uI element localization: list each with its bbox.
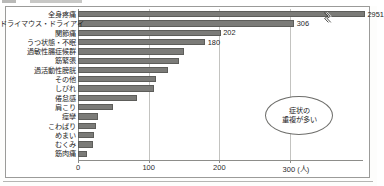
bar <box>78 67 168 73</box>
cutoff-mark-mid <box>30 0 82 3</box>
category-label: ドライマウス・ドライアイ <box>0 20 76 27</box>
bar <box>78 48 184 54</box>
bar <box>78 132 94 138</box>
axis-break-icon <box>322 9 333 19</box>
bar <box>78 85 154 91</box>
bar <box>78 113 98 119</box>
bar <box>78 30 221 36</box>
value-label: 180 <box>208 39 220 46</box>
category-label: 関節痛 <box>0 30 76 37</box>
category-label: こわばり <box>0 123 76 130</box>
x-axis-unit-label: 300 (人) <box>283 163 310 174</box>
x-tick-label-200: 200 <box>213 163 226 172</box>
x-tick-label-100: 100 <box>142 163 155 172</box>
category-label: 痙攣 <box>0 113 76 120</box>
x-axis-line <box>78 160 363 161</box>
category-label: むくみ <box>0 141 76 148</box>
bar <box>78 58 179 64</box>
callout-bubble: 症状の 重複が多い <box>265 96 333 135</box>
category-label: うつ状態・不眠 <box>0 39 76 46</box>
category-label: その他 <box>0 76 76 83</box>
callout-line-2: 重複が多い <box>282 116 317 124</box>
bar <box>78 20 294 26</box>
x-tick-label-0: 0 <box>76 163 80 172</box>
category-label: 筋緊張 <box>0 57 76 64</box>
category-label: しびれ <box>0 85 76 92</box>
bar <box>78 76 156 82</box>
category-label: 倦怠感 <box>0 95 76 102</box>
value-label: 2951 <box>368 11 384 18</box>
category-label: めまい <box>0 132 76 139</box>
bar <box>78 141 93 147</box>
cutoff-mark-left <box>2 0 16 3</box>
page-bottom-rule <box>3 181 373 182</box>
bar <box>78 104 113 110</box>
category-label: 過敏性腸症候群 <box>0 48 76 55</box>
category-label: 筋肉痛 <box>0 150 76 157</box>
value-label: 306 <box>297 20 309 27</box>
callout-line-1: 症状の <box>289 107 310 115</box>
category-label: 肩こり <box>0 104 76 111</box>
bar <box>78 39 205 45</box>
bar <box>78 123 96 129</box>
category-label: 過活動性膀胱 <box>0 67 76 74</box>
bar <box>78 95 137 101</box>
gridline-300 <box>290 9 291 160</box>
bar <box>78 151 87 157</box>
category-label: 全身疼痛 <box>0 11 76 18</box>
value-label: 202 <box>223 29 235 36</box>
